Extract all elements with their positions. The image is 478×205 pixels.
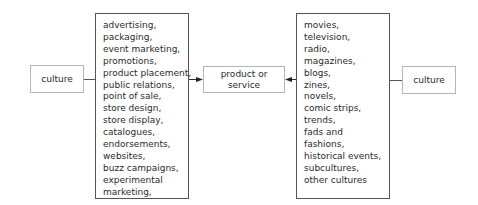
arrow-right-list-to-product-icon: [285, 77, 296, 82]
arrow-left-list-to-product-icon: [189, 77, 203, 82]
arrows-layer: [0, 0, 478, 205]
